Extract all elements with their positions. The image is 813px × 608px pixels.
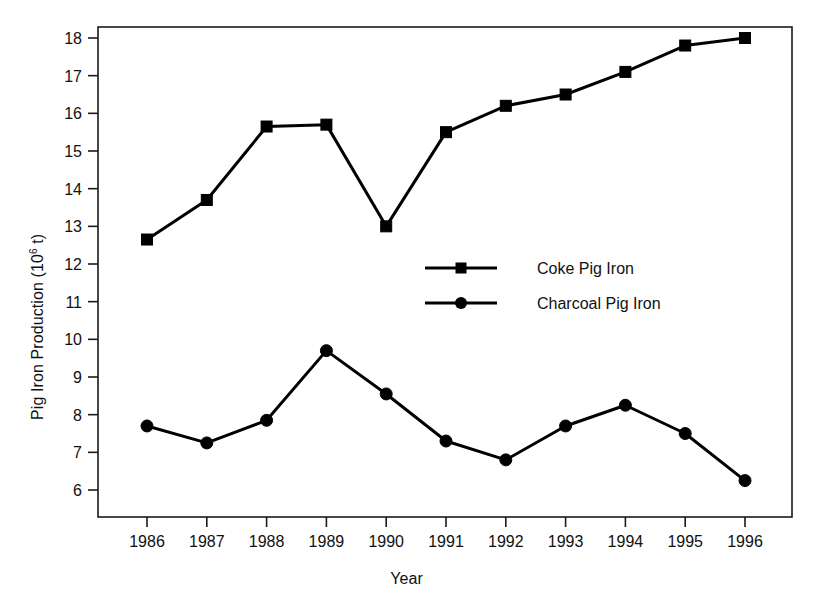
y-axis-tick-label: 17 (64, 68, 82, 85)
y-axis-tick-label: 8 (73, 407, 82, 424)
x-axis-tick-label: 1987 (189, 533, 225, 550)
y-axis-tick-label: 13 (64, 218, 82, 235)
legend-marker-square (456, 263, 467, 274)
x-axis-tick-label: 1994 (608, 533, 644, 550)
legend-item: Coke Pig Iron (425, 260, 634, 277)
x-axis-tick-label: 1996 (727, 533, 763, 550)
x-axis-tick-label: 1991 (428, 533, 464, 550)
series-marker-circle (380, 388, 392, 400)
plot-area: 6789101112131415161718 19861987198819891… (0, 0, 813, 608)
series-marker-square (560, 89, 571, 100)
series-marker-circle (320, 345, 332, 357)
series-marker-square (321, 119, 332, 130)
x-axis-tick-label: 1990 (368, 533, 404, 550)
series-marker-circle (739, 475, 751, 487)
series-marker-circle (560, 420, 572, 432)
x-axis-tick-label: 1986 (129, 533, 165, 550)
series-marker-square (261, 121, 272, 132)
y-axis-tick-label: 12 (64, 256, 82, 273)
data-series (141, 345, 751, 487)
y-axis-tick-label: 6 (73, 482, 82, 499)
x-axis-tick-label: 1993 (548, 533, 584, 550)
y-axis-tick-label: 10 (64, 331, 82, 348)
series-marker-square (740, 33, 751, 44)
series-marker-square (142, 234, 153, 245)
chart-legend: Coke Pig IronCharcoal Pig Iron (425, 260, 661, 312)
series-line (147, 351, 745, 481)
series-marker-circle (261, 414, 273, 426)
y-axis-tick-label: 14 (64, 181, 82, 198)
y-axis-tick-label: 9 (73, 369, 82, 386)
series-marker-square (680, 40, 691, 51)
pig-iron-production-chart: Pig Iron Production (106 t) Year 6789101… (0, 0, 813, 608)
series-marker-square (381, 221, 392, 232)
legend-label: Charcoal Pig Iron (537, 295, 661, 312)
y-axis-tick-label: 16 (64, 105, 82, 122)
y-axis-tick-label: 18 (64, 30, 82, 47)
series-marker-circle (440, 435, 452, 447)
legend-item: Charcoal Pig Iron (425, 295, 661, 312)
x-axis-ticks: 1986198719881989199019911992199319941995… (129, 517, 763, 550)
y-axis-tick-label: 15 (64, 143, 82, 160)
y-axis-tick-label: 7 (73, 444, 82, 461)
series-marker-circle (141, 420, 153, 432)
series-marker-square (201, 194, 212, 205)
series-line (147, 38, 745, 240)
data-series-group (141, 33, 751, 487)
series-marker-circle (500, 454, 512, 466)
x-axis-tick-label: 1992 (488, 533, 524, 550)
x-axis-tick-label: 1988 (249, 533, 285, 550)
y-axis-tick-label: 11 (65, 294, 82, 311)
series-marker-circle (619, 399, 631, 411)
series-marker-square (441, 127, 452, 138)
series-marker-square (620, 66, 631, 77)
legend-marker-circle (455, 297, 467, 309)
series-marker-square (500, 100, 511, 111)
series-marker-circle (201, 437, 213, 449)
x-axis-tick-label: 1989 (309, 533, 345, 550)
x-axis-tick-label: 1995 (667, 533, 703, 550)
y-axis-ticks: 6789101112131415161718 (64, 30, 98, 499)
data-series (142, 33, 751, 246)
series-marker-circle (679, 428, 691, 440)
legend-label: Coke Pig Iron (537, 260, 634, 277)
